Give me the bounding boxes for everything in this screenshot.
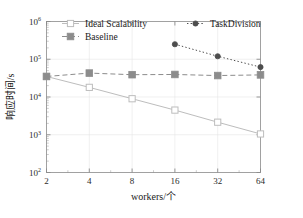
y-tick-label: 105 (29, 54, 41, 64)
series-line (47, 76, 261, 133)
y-axis-title: 响应时间/s (4, 74, 16, 121)
legend-marker (193, 21, 198, 26)
data-point-marker (129, 96, 135, 102)
x-tick-label: 32 (213, 176, 222, 186)
data-point-marker (257, 131, 263, 137)
gridlines-group (47, 22, 261, 173)
y-tick-label: 106 (29, 16, 41, 26)
minor-ticks-group (47, 23, 240, 172)
legend-entry: Ideal Scalability (62, 19, 147, 29)
y-tick-label: 103 (29, 130, 41, 140)
legend-entry: TaskDivision (187, 19, 261, 29)
x-tick-label: 16 (170, 176, 180, 186)
x-tick-label: 64 (256, 176, 266, 186)
y-axis-tick-labels: 102103104105106 (29, 16, 41, 177)
data-point-marker (257, 72, 264, 79)
series-ideal-scalability (43, 73, 263, 137)
data-point-marker (43, 73, 50, 80)
chart-legend: Ideal ScalabilityBaselineTaskDivision (62, 19, 261, 42)
legend-label: Ideal Scalability (85, 19, 147, 29)
data-point-marker (172, 107, 178, 113)
data-point-marker (172, 71, 179, 78)
data-point-marker (215, 119, 221, 125)
legend-label: TaskDivision (210, 19, 261, 29)
data-point-marker (172, 42, 177, 47)
x-tick-label: 2 (44, 176, 49, 186)
data-point-marker (215, 54, 220, 59)
legend-marker (67, 20, 73, 26)
legend-marker (67, 33, 74, 40)
x-axis-tick-labels: 248163264 (44, 176, 265, 186)
y-tick-label: 102 (29, 167, 41, 177)
data-point-marker (258, 64, 263, 69)
line-chart-canvas: 102103104105106 248163264 workers/个 响应时间… (0, 0, 303, 218)
x-axis-title: workers/个 (131, 191, 176, 202)
chart-figure: 102103104105106 248163264 workers/个 响应时间… (0, 0, 303, 218)
x-tick-label: 8 (130, 176, 135, 186)
legend-label: Baseline (85, 32, 118, 42)
legend-entry: Baseline (62, 32, 118, 42)
y-tick-label: 104 (29, 92, 41, 102)
series-line (47, 73, 261, 76)
x-tick-label: 4 (87, 176, 92, 186)
series-baseline (43, 70, 264, 80)
data-point-marker (129, 71, 136, 78)
data-point-marker (86, 70, 93, 77)
data-point-marker (86, 84, 92, 90)
series-layer (43, 42, 264, 137)
data-point-marker (214, 72, 221, 79)
